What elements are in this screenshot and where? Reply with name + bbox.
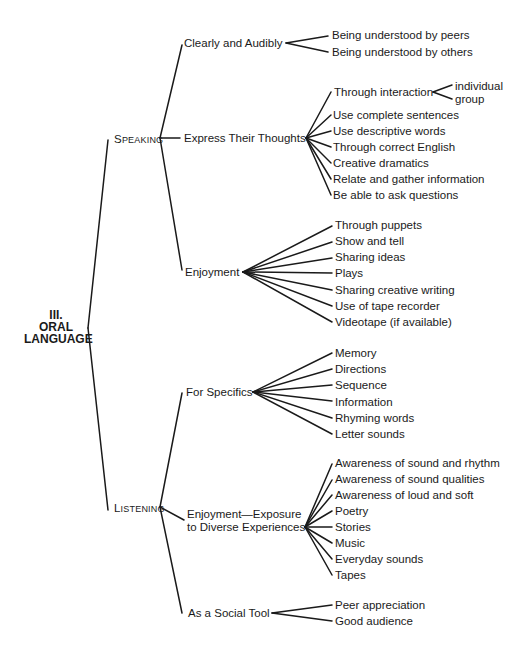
leaf-item: Awareness of sound qualities [335,473,484,486]
root-node-oral-language: III. ORAL LANGUAGE [24,309,88,345]
leaf-item: Sharing ideas [335,251,405,264]
leaf-item: Through interaction [334,86,433,99]
leaf-item: Directions [335,363,386,376]
leaf-item: Use descriptive words [333,125,445,138]
leaf-item: Peer appreciation [335,599,425,612]
leaf-item: Awareness of sound and rhythm [335,457,500,470]
node-as-a-social-tool: As a Social Tool [188,607,270,620]
branch-speaking: SPEAKING [114,133,163,147]
node-express-their-thoughts: Express Their Thoughts [184,132,306,145]
leaf-item: Through puppets [335,219,422,232]
leaf-item: Stories [335,521,371,534]
oral-language-tree-diagram: III. ORAL LANGUAGE SPEAKING Clearly and … [0,0,526,654]
leaf-item: Creative dramatics [333,157,429,170]
node-clearly-and-audibly: Clearly and Audibly [184,37,282,50]
leaf-item: Being understood by others [332,46,473,59]
leaf-item: Be able to ask questions [333,189,458,202]
leaf-item: Everyday sounds [335,553,423,566]
node-for-specifics: For Specifics [186,386,252,399]
leaf-item: Being understood by peers [332,29,469,42]
leaf-item: Sequence [335,379,387,392]
node-enjoyment: Enjoyment [185,266,239,279]
branch-listening: LISTENING [114,502,165,516]
sub-leaf-group: group [455,93,484,106]
leaf-item: Plays [335,267,363,280]
leaf-item: Awareness of loud and soft [335,489,474,502]
leaf-item: Videotape (if available) [335,316,452,329]
sub-leaf-individual: individual [455,80,503,93]
leaf-item: Rhyming words [335,412,414,425]
leaf-item: Sharing creative writing [335,284,455,297]
leaf-item: Relate and gather information [333,173,485,186]
leaf-item: Good audience [335,615,413,628]
leaf-item: Use complete sentences [333,109,459,122]
node-enjoyment-exposure: Enjoyment—Exposure to Diverse Experience… [187,508,305,534]
leaf-item: Music [335,537,365,550]
leaf-item: Use of tape recorder [335,300,440,313]
leaf-item: Memory [335,347,377,360]
leaf-item: Through correct English [333,141,455,154]
leaf-item: Poetry [335,505,368,518]
leaf-item: Tapes [335,569,366,582]
leaf-item: Letter sounds [335,428,405,441]
leaf-item: Information [335,396,393,409]
leaf-item: Show and tell [335,235,404,248]
root-label-line2: LANGUAGE [24,333,88,345]
